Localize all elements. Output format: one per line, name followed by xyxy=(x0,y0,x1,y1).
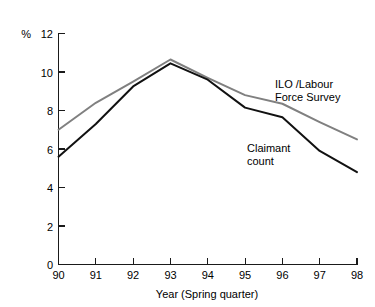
y-axis-ticks xyxy=(59,34,66,265)
x-tick-label-95: 95 xyxy=(239,269,251,281)
y-tick-label-8: 8 xyxy=(47,105,53,117)
x-tick-label-93: 93 xyxy=(164,269,176,281)
y-axis-unit-label: % xyxy=(21,28,31,40)
x-tick-label-94: 94 xyxy=(202,269,214,281)
chart-axes xyxy=(59,33,358,265)
unemployment-line-chart: 12 10 8 6 4 2 0 % 90 91 92 93 xyxy=(0,0,375,307)
y-tick-label-6: 6 xyxy=(47,144,53,156)
annotation-ilo-labour-force-survey: ILO /Labour Force Survey xyxy=(275,78,341,103)
y-tick-label-12: 12 xyxy=(41,28,53,40)
x-tick-label-96: 96 xyxy=(276,269,288,281)
x-axis-title: Year (Spring quarter) xyxy=(156,288,258,300)
x-tick-label-98: 98 xyxy=(351,269,363,281)
y-tick-label-4: 4 xyxy=(47,182,53,194)
chart-series-group xyxy=(59,59,358,172)
x-axis-ticks xyxy=(59,258,358,265)
annotation-claimant-count: Claimant count xyxy=(247,142,290,167)
y-tick-label-2: 2 xyxy=(47,221,53,233)
x-axis-tick-labels: 90 91 92 93 94 95 96 97 98 xyxy=(52,269,363,281)
x-tick-label-97: 97 xyxy=(314,269,326,281)
annotation-ilo-line-2: Force Survey xyxy=(275,91,341,103)
y-axis-tick-labels: 12 10 8 6 4 2 0 xyxy=(41,28,53,271)
x-tick-label-91: 91 xyxy=(90,269,102,281)
x-tick-label-90: 90 xyxy=(52,269,64,281)
x-tick-label-92: 92 xyxy=(127,269,139,281)
y-tick-label-10: 10 xyxy=(41,67,53,79)
annotation-claimant-line-1: Claimant xyxy=(247,142,290,154)
annotation-ilo-line-1: ILO /Labour xyxy=(275,78,333,90)
annotation-claimant-line-2: count xyxy=(247,155,274,167)
chart-container: 12 10 8 6 4 2 0 % 90 91 92 93 xyxy=(0,0,375,307)
